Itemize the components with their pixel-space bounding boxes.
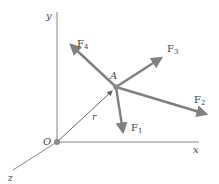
force-arrow-f2 (116, 87, 206, 114)
origin-label: O (43, 136, 51, 147)
position-vector-r (57, 91, 112, 142)
force-sub-f1: 1 (138, 127, 142, 135)
force-label-f1: F1 (131, 122, 142, 135)
force-arrow-f3 (116, 58, 161, 87)
axes (13, 12, 199, 170)
force-sub-f2: 2 (201, 99, 205, 107)
force-label-f2: F2 (194, 94, 205, 107)
point-a (113, 84, 119, 90)
force-sub-f3: 3 (174, 48, 178, 56)
x-axis-label: x (193, 144, 199, 155)
force-sub-f4: 4 (84, 43, 89, 51)
position-vector-label: r (92, 112, 97, 122)
force-label-f3: F3 (167, 43, 178, 56)
origin-point (54, 139, 60, 145)
force-diagram: y x z r F4 F3 F2 F1 A O (0, 0, 219, 184)
point-a-label: A (109, 70, 117, 81)
force-label-f4: F4 (77, 38, 89, 51)
z-axis-label: z (7, 173, 13, 183)
force-arrow-f1 (116, 87, 123, 132)
y-axis-label: y (45, 10, 52, 21)
